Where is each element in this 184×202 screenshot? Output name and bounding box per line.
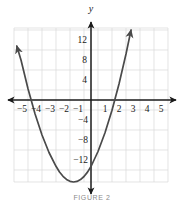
x-tick-label: 1 bbox=[103, 104, 108, 114]
parabola-chart: −5 −4 −3 −2 −1 1 2 3 4 5 12 8 4 −4 −8 −1… bbox=[0, 0, 184, 202]
y-axis-label: y bbox=[88, 3, 94, 14]
y-tick-label: 4 bbox=[82, 75, 87, 85]
x-tick-label: −5 bbox=[17, 104, 27, 114]
x-tick-label: 3 bbox=[131, 104, 136, 114]
y-tick-label: 8 bbox=[82, 55, 87, 65]
x-tick-label: −3 bbox=[45, 104, 55, 114]
figure-caption: FIGURE 2 bbox=[0, 194, 184, 202]
x-tick-label: 4 bbox=[145, 104, 150, 114]
x-tick-label: 5 bbox=[159, 104, 164, 114]
x-tick-label: 2 bbox=[117, 104, 122, 114]
y-tick-label: −8 bbox=[78, 135, 88, 145]
x-tick-label: −4 bbox=[31, 104, 41, 114]
figure-container: −5 −4 −3 −2 −1 1 2 3 4 5 12 8 4 −4 −8 −1… bbox=[0, 0, 184, 202]
x-tick-label: −2 bbox=[59, 104, 69, 114]
y-tick-label: −12 bbox=[73, 155, 88, 165]
y-tick-label: −4 bbox=[78, 115, 88, 125]
x-tick-label: −1 bbox=[73, 104, 83, 114]
y-tick-label: 12 bbox=[78, 35, 88, 45]
